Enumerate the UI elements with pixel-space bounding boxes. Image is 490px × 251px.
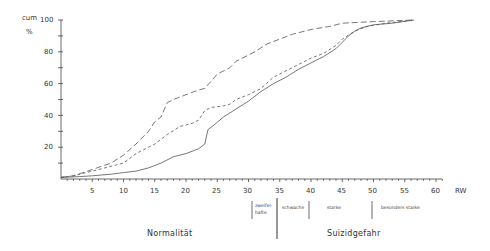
x-tick-label: 35 [275, 187, 284, 195]
y-axis-unit-cum: cum [22, 14, 37, 22]
group-label-suizidgefahr: Suizidgefahr [327, 229, 381, 238]
y-tick-label: 40 [44, 112, 53, 120]
y-tick-label: 80 [44, 48, 53, 56]
x-tick-label: 50 [368, 187, 377, 195]
series-lines [61, 20, 414, 177]
x-tick-label: 40 [306, 187, 315, 195]
region-label-besonders-starke: besonders starke [381, 205, 420, 210]
y-tick-label: 60 [44, 80, 53, 88]
short-dash-series-line [61, 20, 414, 177]
x-tick-label: 10 [119, 187, 128, 195]
x-tick-label: 60 [431, 187, 440, 195]
region-label-starke: starke [327, 205, 341, 210]
x-tick-label: 55 [400, 187, 409, 195]
x-tick-label: 5 [90, 187, 94, 195]
x-tick-label: 25 [212, 187, 221, 195]
y-tick-label: 100 [40, 16, 53, 24]
x-tick-label: 45 [337, 187, 346, 195]
region-label-zweifelhafte-2: hafte [255, 210, 267, 215]
x-tick-label: 20 [181, 187, 190, 195]
y-axis-unit-percent: % [26, 28, 33, 36]
axes [58, 20, 442, 182]
group-label-normalitaet: Normalität [147, 229, 192, 238]
x-tick-label: 30 [243, 187, 252, 195]
cumulative-distribution-chart [0, 0, 490, 251]
x-axis-unit-rw: RW [455, 187, 467, 195]
y-tick-label: 20 [44, 143, 53, 151]
region-label-zweifelhafte-1: zweifel- [255, 203, 272, 208]
x-tick-label: 15 [150, 187, 159, 195]
region-label-schwache: schwache [282, 205, 304, 210]
